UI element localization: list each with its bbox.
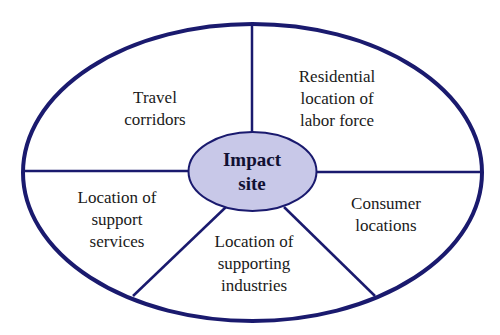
sector-consumer-locations: Consumer locations <box>351 193 421 237</box>
sector-travel-corridors: Travel corridors <box>124 87 185 131</box>
sector-residential-location: Residential location of labor force <box>299 66 375 132</box>
sector-supporting-industries: Location of supporting industries <box>215 231 294 297</box>
impact-site-label: Impact site <box>223 148 281 196</box>
sector-support-services: Location of support services <box>78 187 157 253</box>
